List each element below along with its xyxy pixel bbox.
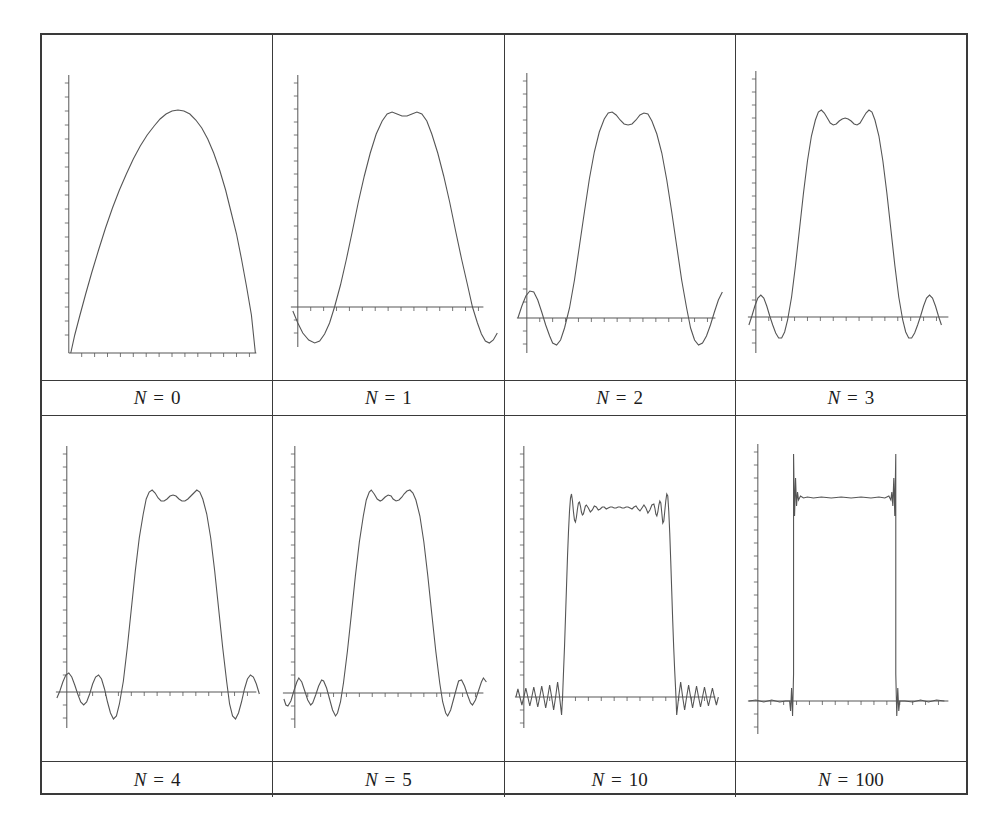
caption-n1-op: = bbox=[378, 387, 403, 409]
curve-n0 bbox=[71, 110, 256, 353]
plot-cell-n10 bbox=[505, 416, 736, 761]
caption-n100-var: N bbox=[818, 769, 831, 791]
caption-n2: N=2 bbox=[505, 381, 736, 415]
x-axis-ticks bbox=[308, 693, 476, 697]
caption-n5: N=5 bbox=[273, 762, 504, 797]
curve-n100 bbox=[749, 454, 945, 716]
plot-n0 bbox=[42, 35, 272, 380]
plot-n1 bbox=[273, 35, 503, 380]
caption-n3-op: = bbox=[840, 387, 865, 409]
caption-n10-num: 10 bbox=[629, 769, 648, 791]
plot-cell-n0 bbox=[42, 35, 273, 380]
y-axis-ticks bbox=[291, 454, 295, 719]
caption-n1-num: 1 bbox=[402, 387, 412, 409]
caption-n0-var: N bbox=[134, 387, 147, 409]
curve-n10 bbox=[515, 494, 717, 715]
caption-n4-var: N bbox=[134, 769, 147, 791]
plot-n5 bbox=[273, 416, 503, 761]
plot-cell-n2 bbox=[505, 35, 736, 380]
plot-n3 bbox=[736, 35, 966, 380]
plot-n2 bbox=[505, 35, 735, 380]
x-axis-ticks bbox=[311, 307, 479, 311]
caption-n2-var: N bbox=[596, 387, 609, 409]
plot-cell-n1 bbox=[273, 35, 504, 380]
plot-cell-n100 bbox=[736, 416, 966, 761]
x-axis-ticks bbox=[82, 353, 250, 357]
y-axis-ticks bbox=[65, 83, 69, 335]
caption-n5-num: 5 bbox=[402, 769, 412, 791]
caption-n0: N=0 bbox=[42, 381, 273, 415]
caption-n2-num: 2 bbox=[634, 387, 644, 409]
plot-n10 bbox=[505, 416, 735, 761]
caption-n5-var: N bbox=[365, 769, 378, 791]
y-axis-ticks bbox=[519, 454, 523, 723]
caption-n1-var: N bbox=[365, 387, 378, 409]
caption-n3-var: N bbox=[827, 387, 840, 409]
plot-n100 bbox=[736, 416, 966, 761]
caption-n3-num: 3 bbox=[865, 387, 875, 409]
y-axis-ticks bbox=[754, 452, 758, 727]
plot-cell-n4 bbox=[42, 416, 273, 761]
caption-n2-op: = bbox=[609, 387, 634, 409]
plot-row-top bbox=[42, 35, 966, 380]
plot-cell-n5 bbox=[273, 416, 504, 761]
x-axis-ticks bbox=[769, 317, 937, 321]
caption-n10: N=10 bbox=[505, 762, 736, 797]
curve-n2 bbox=[517, 112, 721, 345]
caption-n100-num: 100 bbox=[855, 769, 884, 791]
plot-n4 bbox=[42, 416, 272, 761]
caption-row-top: N=0 N=1 N=2 N=3 bbox=[42, 380, 966, 416]
caption-n4-num: 4 bbox=[171, 769, 181, 791]
curve-n4 bbox=[57, 490, 259, 719]
caption-n10-op: = bbox=[604, 769, 629, 791]
caption-n1: N=1 bbox=[273, 381, 504, 415]
caption-n4-op: = bbox=[146, 769, 171, 791]
caption-row-bottom: N=4 N=5 N=10 N=100 bbox=[42, 761, 966, 797]
caption-n5-op: = bbox=[378, 769, 403, 791]
y-axis-ticks bbox=[294, 83, 298, 333]
caption-n10-var: N bbox=[591, 769, 604, 791]
plot-row-bottom bbox=[42, 416, 966, 761]
y-axis-ticks bbox=[522, 81, 526, 344]
caption-n0-op: = bbox=[146, 387, 171, 409]
curve-n3 bbox=[749, 110, 942, 338]
caption-n100: N=100 bbox=[736, 762, 966, 797]
plot-cell-n3 bbox=[736, 35, 966, 380]
x-axis-ticks bbox=[539, 318, 707, 322]
curve-n5 bbox=[284, 490, 486, 716]
running-header bbox=[0, 0, 1005, 14]
figure-table: N=0 N=1 N=2 N=3 bbox=[40, 33, 968, 795]
caption-n3: N=3 bbox=[736, 381, 966, 415]
caption-n4: N=4 bbox=[42, 762, 273, 797]
caption-n0-num: 0 bbox=[171, 387, 181, 409]
caption-n100-op: = bbox=[831, 769, 856, 791]
